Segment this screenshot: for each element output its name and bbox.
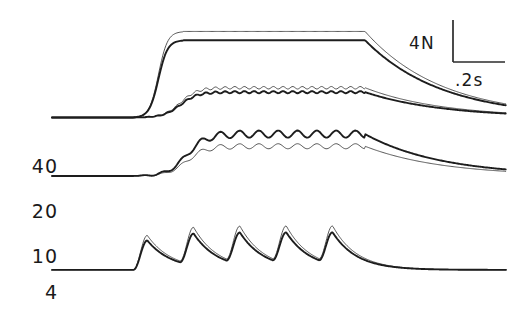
force-trace	[52, 86, 506, 117]
trace-group	[52, 31, 506, 269]
force-trace	[52, 91, 506, 117]
force-trace-figure: Force 40 20 10 4 4N .2s	[0, 0, 516, 326]
force-trace	[52, 31, 506, 117]
force-trace	[52, 232, 506, 270]
force-trace	[52, 131, 506, 177]
trace-canvas	[0, 0, 516, 326]
